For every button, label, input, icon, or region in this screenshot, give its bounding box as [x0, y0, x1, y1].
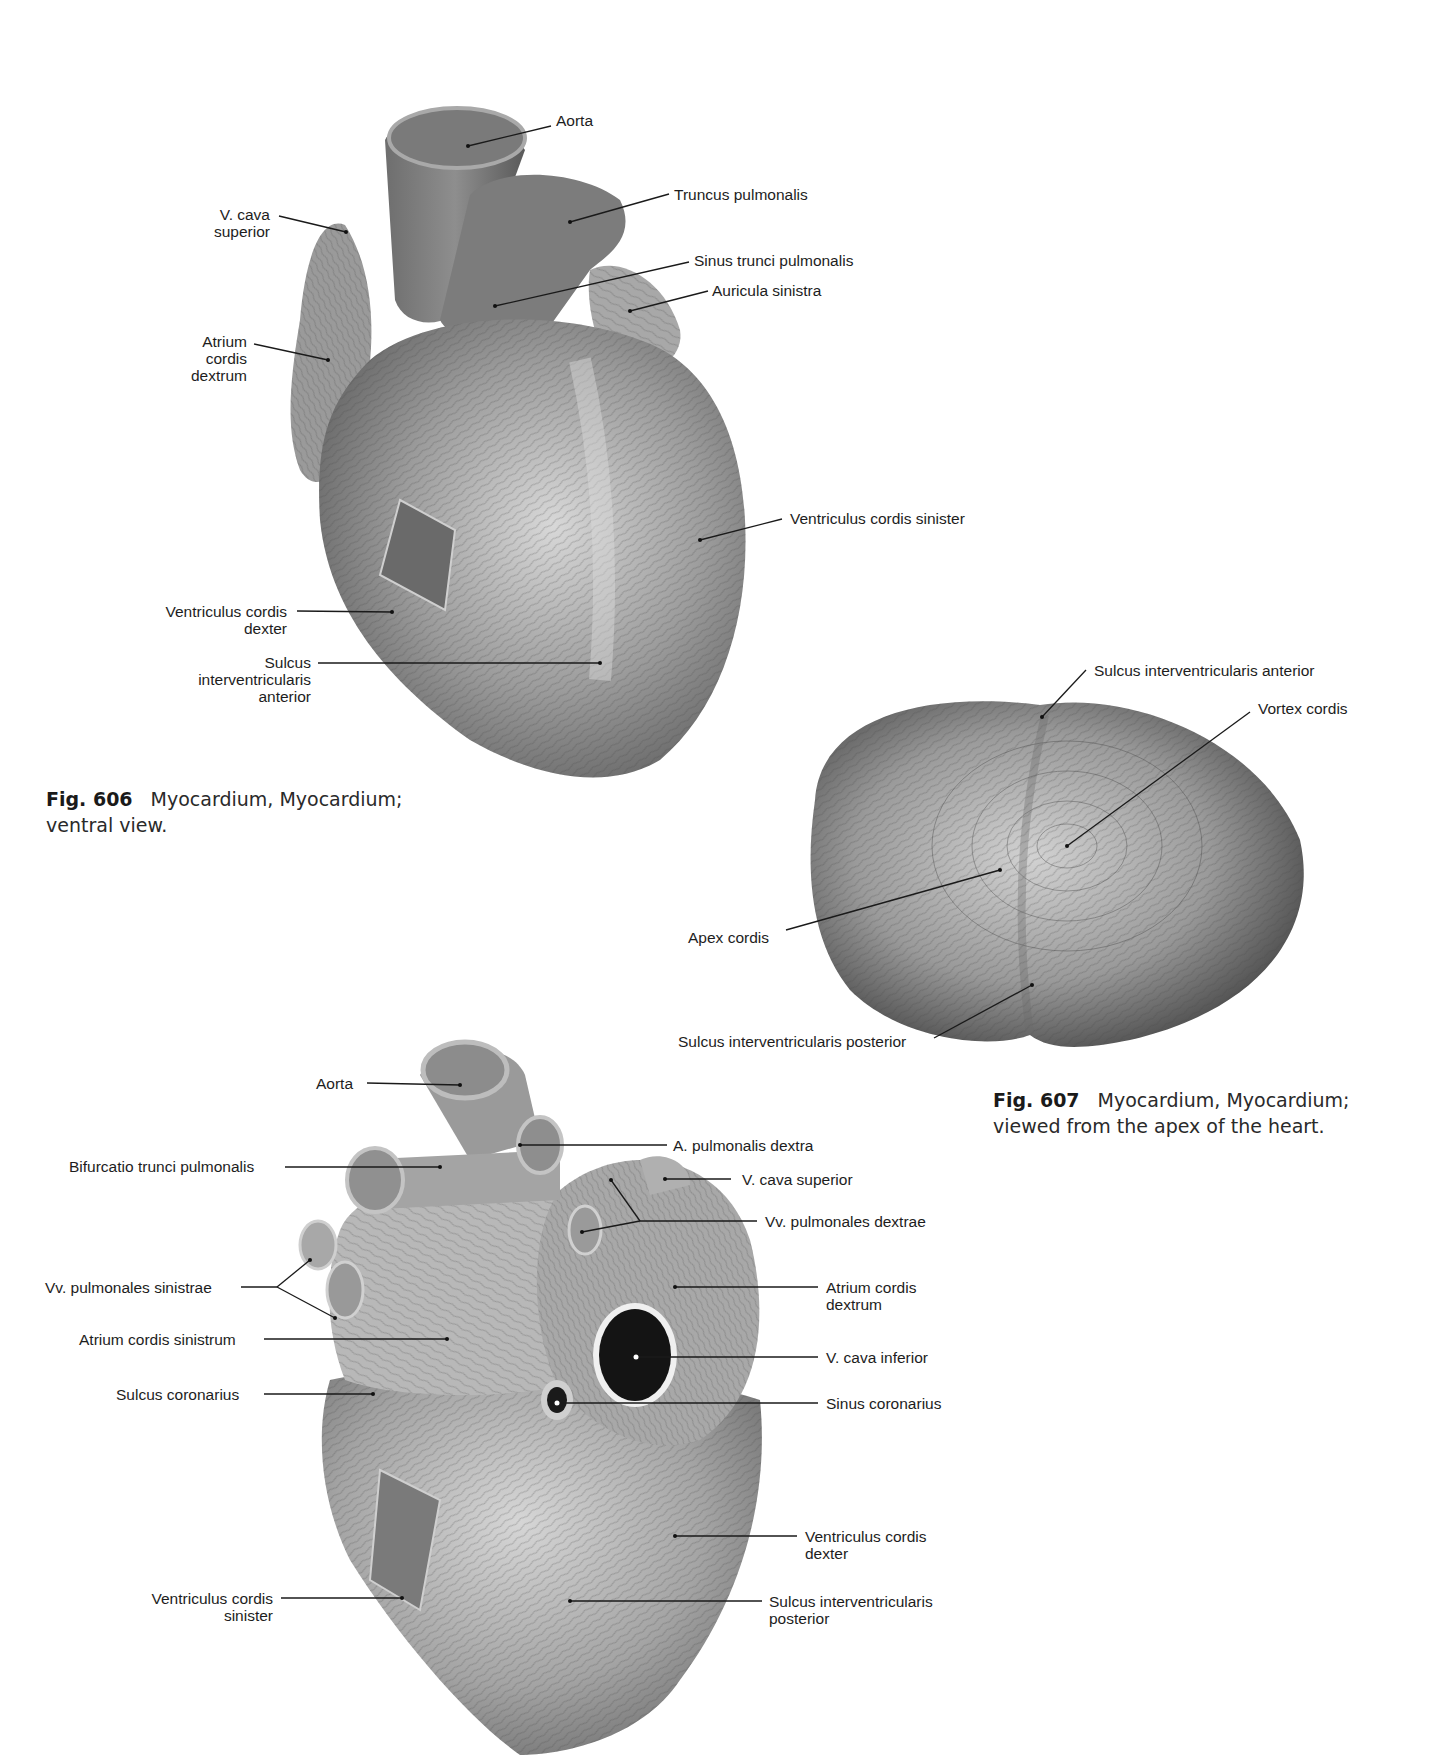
figure-subtitle: ventral view.: [46, 812, 403, 838]
label-ventriculus-cordis-sinister: Ventriculus cordis sinister: [790, 510, 965, 527]
label-vv-pulmonales-dextrae: Vv. pulmonales dextrae: [765, 1213, 926, 1230]
label-sinus-trunci-pulmonalis: Sinus trunci pulmonalis: [694, 252, 853, 269]
figure-title: Myocardium, Myocardium;: [1098, 1089, 1350, 1111]
figure-title: Myocardium, Myocardium;: [151, 788, 403, 810]
label-bifurcatio-trunci-pulmonalis: Bifurcatio trunci pulmonalis: [69, 1158, 254, 1175]
figure-caption-607: Fig. 607Myocardium, Myocardium; viewed f…: [993, 1087, 1350, 1139]
label-ventriculus-cordis-dexter: Ventriculus cordis dexter: [166, 603, 287, 637]
label-sulcus-interventricularis-posterior-apex: Sulcus interventricularis posterior: [678, 1033, 906, 1050]
label-a-pulmonalis-dextra: A. pulmonalis dextra: [673, 1137, 813, 1154]
label-atrium-cordis-dextrum: Atrium cordis dextrum: [191, 333, 247, 384]
label-apex-cordis: Apex cordis: [688, 929, 769, 946]
figure-number: Fig. 607: [993, 1089, 1080, 1111]
label-v-cava-superior-dorsal: V. cava superior: [742, 1171, 853, 1188]
label-ventriculus-cordis-dexter-dorsal: Ventriculus cordis dexter: [805, 1528, 926, 1562]
fig607-heart-apex-drawing: [811, 701, 1304, 1047]
figure-subtitle: viewed from the apex of the heart.: [993, 1113, 1350, 1139]
fig606-heart-ventral-drawing: [291, 108, 746, 777]
figure-caption-606: Fig. 606Myocardium, Myocardium; ventral …: [46, 786, 403, 838]
label-vortex-cordis: Vortex cordis: [1258, 700, 1348, 717]
label-v-cava-superior: V. cava superior: [214, 206, 270, 240]
label-atrium-cordis-sinistrum: Atrium cordis sinistrum: [79, 1331, 236, 1348]
label-sulcus-interventricularis-posterior-dorsal: Sulcus interventricularis posterior: [769, 1593, 933, 1627]
label-aorta-dorsal: Aorta: [316, 1075, 353, 1092]
label-atrium-cordis-dextrum-dorsal: Atrium cordis dextrum: [826, 1279, 916, 1313]
label-v-cava-inferior: V. cava inferior: [826, 1349, 928, 1366]
label-sinus-coronarius: Sinus coronarius: [826, 1395, 941, 1412]
figure-number: Fig. 606: [46, 788, 133, 810]
label-aorta: Aorta: [556, 112, 593, 129]
label-sulcus-interventricularis-anterior: Sulcus interventricularis anterior: [198, 654, 311, 705]
label-ventriculus-cordis-sinister-dorsal: Ventriculus cordis sinister: [152, 1590, 273, 1624]
label-truncus-pulmonalis: Truncus pulmonalis: [674, 186, 808, 203]
label-sulcus-coronarius: Sulcus coronarius: [116, 1386, 239, 1403]
label-auricula-sinistra: Auricula sinistra: [712, 282, 821, 299]
label-vv-pulmonales-sinistrae: Vv. pulmonales sinistrae: [45, 1279, 212, 1296]
label-sulcus-interventricularis-anterior-apex: Sulcus interventricularis anterior: [1094, 662, 1315, 679]
